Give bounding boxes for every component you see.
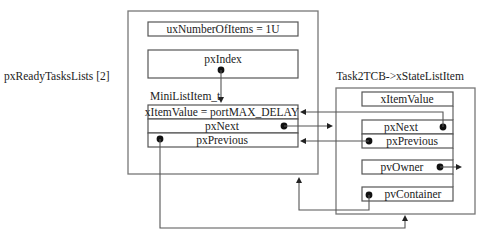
arrow-left-icon bbox=[300, 138, 306, 144]
ready-tasks-lists-label: pxReadyTasksLists [2] bbox=[4, 70, 110, 83]
tcb-px-next-text: pxNext bbox=[384, 121, 419, 134]
tcb-item-value-text: xItemValue bbox=[380, 93, 433, 105]
mini-px-previous-text: pxPrevious bbox=[196, 134, 248, 147]
arrow-up-icon bbox=[296, 177, 302, 183]
mini-list-item-label: MiniListItem_t bbox=[150, 90, 221, 102]
tcb-state-list-item-label: Task2TCB->xStateListItem bbox=[336, 70, 464, 82]
ux-number-of-items-text: uxNumberOfItems = 1U bbox=[166, 23, 280, 35]
arrow-up-icon bbox=[402, 215, 408, 221]
mini-item-value-text: xItemValue = portMAX_DELAY bbox=[145, 106, 300, 119]
mini-px-next-text: pxNext bbox=[205, 120, 240, 133]
arrow-right-icon bbox=[456, 164, 462, 170]
arrow-right-icon bbox=[327, 123, 333, 129]
tcb-pv-container-text: pvContainer bbox=[385, 188, 442, 201]
list-diagram: pxReadyTasksLists [2] uxNumberOfItems = … bbox=[0, 0, 484, 238]
tcb-pv-owner-text: pvOwner bbox=[381, 161, 424, 174]
arrow-left-icon bbox=[300, 109, 306, 115]
px-index-text: pxIndex bbox=[204, 53, 242, 66]
tcb-px-previous-text: pxPrevious bbox=[386, 135, 438, 148]
